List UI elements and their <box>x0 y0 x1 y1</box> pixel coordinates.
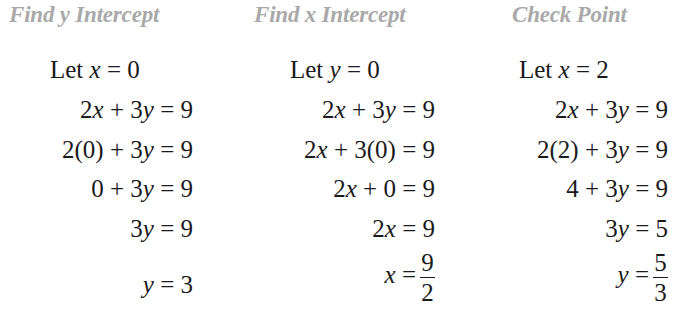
let-statement: Let x = 0 <box>50 56 140 84</box>
step-2: 2(2) + 3y = 9 <box>537 136 668 164</box>
step-1: 2x + 3y = 9 <box>555 96 668 124</box>
step-1: 2x + 3y = 9 <box>322 96 435 124</box>
step-3: 2x + 0 = 9 <box>333 175 435 203</box>
step-4: 2x = 9 <box>372 215 435 243</box>
fraction: 92 <box>420 250 435 305</box>
step-4: 3y = 9 <box>130 215 193 243</box>
let-statement: Let x = 2 <box>519 56 609 84</box>
step-3: 4 + 3y = 9 <box>566 175 668 203</box>
heading-find-y-intercept: Find y Intercept <box>9 2 159 28</box>
step-2: 2x + 3(0) = 9 <box>304 136 435 164</box>
let-statement: Let y = 0 <box>290 56 380 84</box>
result: y = 3 <box>143 271 193 299</box>
step-3: 0 + 3y = 9 <box>91 175 193 203</box>
result: x =92 <box>385 250 435 305</box>
step-1: 2x + 3y = 9 <box>80 96 193 124</box>
fraction: 53 <box>653 250 668 305</box>
result: y =53 <box>618 250 668 305</box>
step-4: 3y = 5 <box>605 215 668 243</box>
heading-check-point: Check Point <box>512 2 627 28</box>
heading-find-x-intercept: Find x Intercept <box>254 2 405 28</box>
step-2: 2(0) + 3y = 9 <box>62 136 193 164</box>
